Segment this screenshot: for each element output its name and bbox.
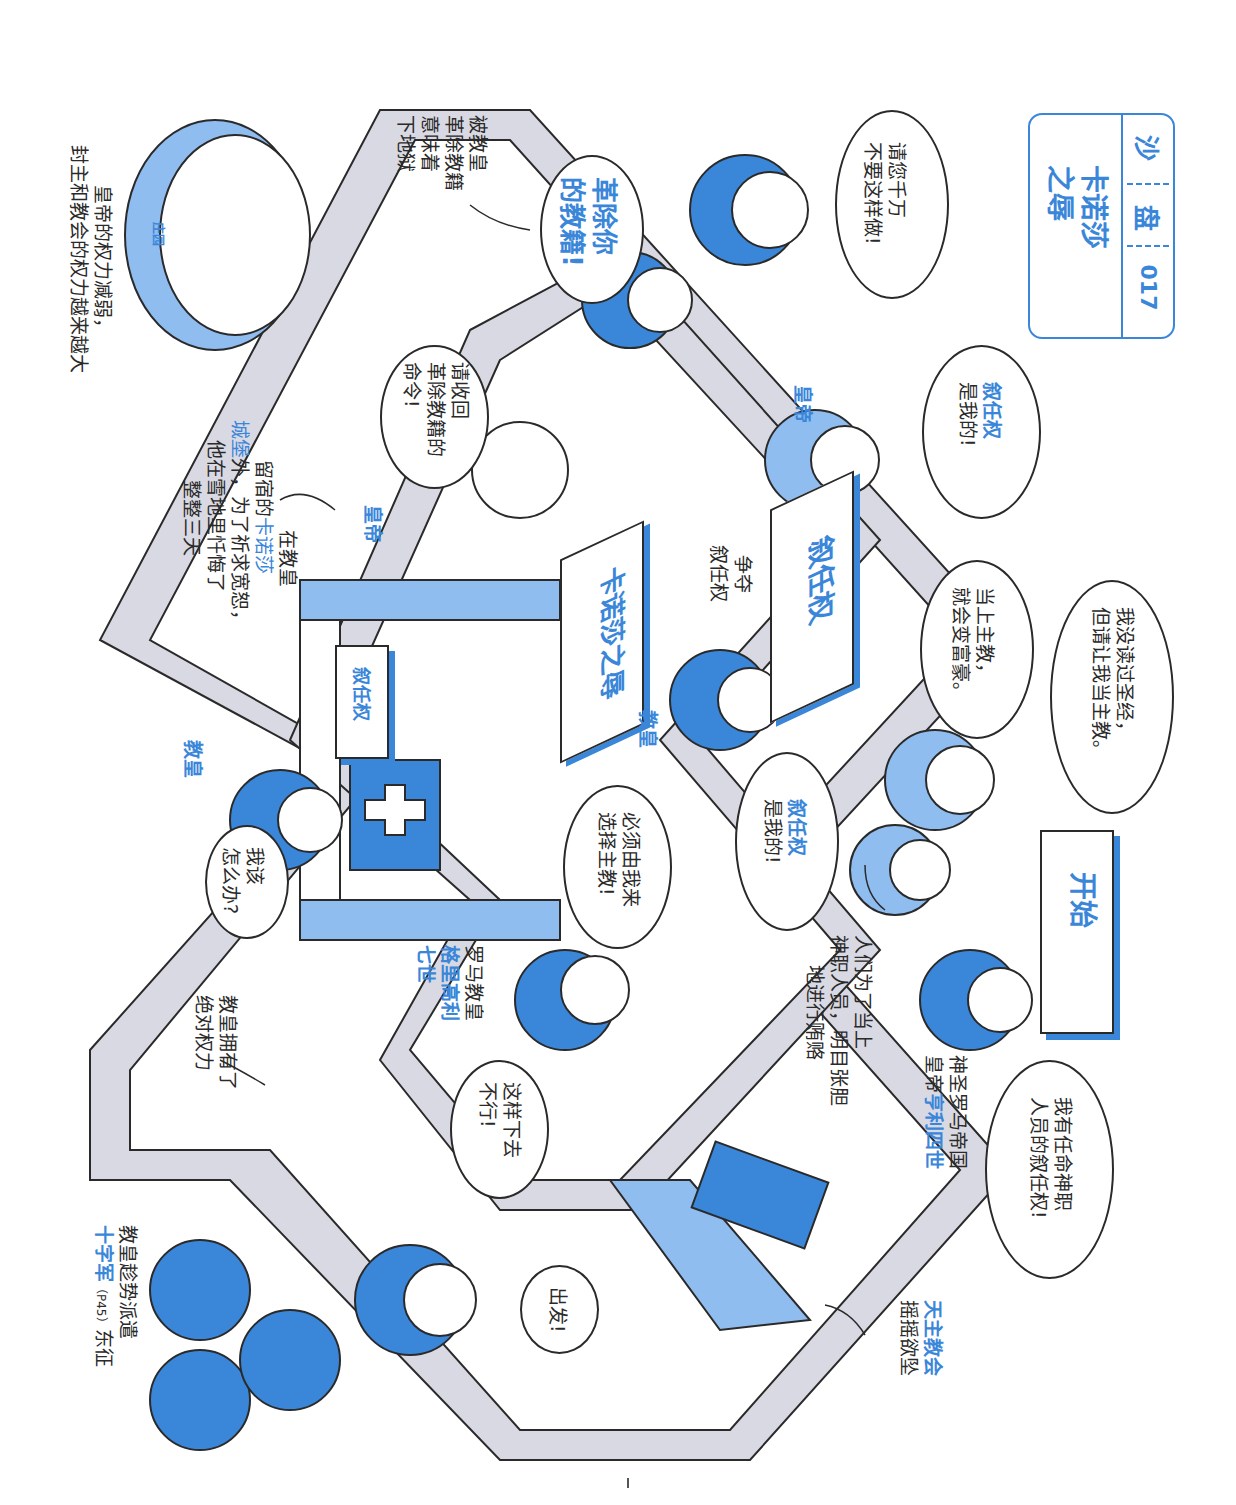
- caption-absolute-power: 教皇拥有了 绝对权力: [192, 995, 240, 1090]
- series-char: 沙: [1130, 123, 1167, 173]
- investiture-sign-label: 叙任权: [808, 533, 832, 628]
- bubble-become-rich: 当上主教， 就会变富豪。: [920, 560, 1034, 739]
- bubble-revoke-order: 请收回 革除教籍的 命令!: [380, 345, 489, 489]
- manor-disc-top: [160, 135, 310, 335]
- caption-power-shift: 皇帝的权力减弱， 封主和教会的权力越来越大: [67, 145, 115, 373]
- chapter-title-box: 沙 盘 017 卡诺莎 之辱: [1028, 113, 1175, 339]
- bubble-appoint-clergy: 我有任命神职 人员的叙任权!: [985, 1060, 1114, 1279]
- caption-henry-iv: 神圣罗马帝国 皇帝亨利四世: [922, 1055, 970, 1169]
- bubble-cannot-continue: 这样下去 不行!: [450, 1060, 549, 1199]
- label-pope: 教皇: [181, 740, 205, 778]
- dashed-divider: [1127, 245, 1169, 247]
- page-mark: [627, 1478, 629, 1488]
- caption-gregory-vii: 罗马教皇 格里高利 七世: [414, 945, 486, 1021]
- series-column: 沙 盘 017: [1121, 115, 1173, 337]
- caption-excommunication: 被教皇 革除教籍 意味着 下地狱: [394, 115, 490, 191]
- castle-wall: [300, 580, 560, 620]
- investiture-sign-center: 叙任权: [770, 470, 854, 723]
- start-sign-label: 开始: [1070, 872, 1094, 928]
- bubble-must-choose: 必须由我来 选择主教!: [563, 785, 672, 949]
- bubble-no-bible: 我没读过圣经， 但请让我当主教。: [1050, 580, 1174, 814]
- caption-fight-investiture: 争夺 叙任权: [707, 545, 755, 602]
- chapter-number: 017: [1136, 263, 1161, 313]
- bubble-depart: 出发!: [520, 1265, 599, 1354]
- dashed-divider: [1127, 183, 1169, 185]
- canossa-sign: 卡诺莎之辱: [560, 520, 644, 763]
- investiture-sign-castle: 叙任权: [335, 645, 389, 759]
- canossa-sign-label: 卡诺莎之辱: [600, 562, 624, 713]
- bubble-excommunicate: 革除你 的教籍!: [540, 155, 644, 304]
- bubble-pope-investiture: 叙任权 是我的!: [735, 752, 839, 931]
- manor-label: 庄园: [146, 222, 170, 246]
- caption-church-shaking: 天主教会 摇摇欲坠: [897, 1300, 945, 1376]
- start-sign: 开始: [1040, 830, 1114, 1034]
- caption-bribery: 人们为了当上 神职人员，明目张胆 地进行贿赂: [803, 935, 875, 1106]
- label-emperor: 皇帝: [361, 505, 385, 543]
- bubble-emperor-investiture: 叙任权 是我的!: [922, 345, 1041, 519]
- label-emperor: 皇帝: [791, 385, 815, 423]
- chapter-title: 卡诺莎 之辱: [1042, 165, 1110, 249]
- castle-wall: [300, 900, 560, 940]
- label-pope: 教皇: [636, 710, 660, 748]
- caption-crusade: 教皇趁势派遣 十字军（P45）东征: [89, 1225, 140, 1367]
- bubble-dont-do-this: 请您千万 不要这样做!: [835, 110, 949, 299]
- caption-canossa-story: 在教皇 留宿的卡诺莎 城堡外，为了祈求宽恕， 他在雪地里忏悔了 整整三天: [180, 420, 300, 629]
- investiture-castle-label: 叙任权: [349, 667, 373, 721]
- bubble-what-to-do: 我该 怎么办?: [205, 825, 289, 939]
- series-char: 盘: [1130, 193, 1167, 243]
